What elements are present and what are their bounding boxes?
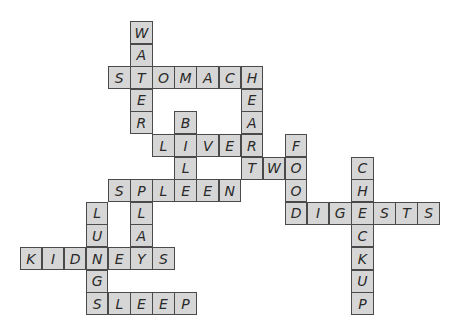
- crossword-cell[interactable]: A: [196, 66, 219, 89]
- crossword-cell[interactable]: U: [351, 270, 374, 293]
- crossword-cell[interactable]: K: [20, 247, 43, 270]
- crossword-cell[interactable]: T: [241, 157, 264, 180]
- crossword-cell[interactable]: E: [174, 179, 197, 202]
- crossword-cell[interactable]: E: [219, 134, 242, 157]
- crossword-cell[interactable]: W: [130, 21, 153, 44]
- crossword-cell[interactable]: Y: [130, 247, 153, 270]
- crossword-cell[interactable]: R: [130, 111, 153, 134]
- crossword-cell[interactable]: P: [130, 179, 153, 202]
- crossword-cell[interactable]: B: [174, 111, 197, 134]
- crossword-cell[interactable]: P: [174, 292, 197, 315]
- crossword-cell[interactable]: L: [152, 134, 175, 157]
- crossword-cell[interactable]: A: [241, 111, 264, 134]
- crossword-cell[interactable]: I: [174, 134, 197, 157]
- crossword-cell[interactable]: E: [130, 89, 153, 112]
- crossword-cell[interactable]: U: [86, 224, 109, 247]
- crossword-cell[interactable]: E: [108, 247, 131, 270]
- crossword-cell[interactable]: S: [152, 247, 175, 270]
- crossword-cell[interactable]: H: [241, 66, 264, 89]
- crossword-cell[interactable]: I: [42, 247, 65, 270]
- crossword-cell[interactable]: L: [108, 292, 131, 315]
- crossword-cell[interactable]: T: [395, 202, 418, 225]
- crossword-cell[interactable]: O: [285, 157, 308, 180]
- crossword-cell[interactable]: O: [152, 66, 175, 89]
- crossword-cell[interactable]: E: [241, 89, 264, 112]
- crossword-cell[interactable]: E: [130, 292, 153, 315]
- crossword-cell[interactable]: S: [417, 202, 440, 225]
- crossword-cell[interactable]: D: [64, 247, 87, 270]
- crossword-cell[interactable]: S: [373, 202, 396, 225]
- crossword-cell[interactable]: T: [130, 66, 153, 89]
- crossword-cell[interactable]: C: [351, 224, 374, 247]
- crossword-cell[interactable]: S: [108, 179, 131, 202]
- crossword-cell[interactable]: G: [329, 202, 352, 225]
- crossword-cell[interactable]: N: [86, 247, 109, 270]
- crossword-cell[interactable]: H: [351, 179, 374, 202]
- crossword-cell[interactable]: I: [307, 202, 330, 225]
- crossword-cell[interactable]: M: [174, 66, 197, 89]
- crossword-cell[interactable]: K: [351, 247, 374, 270]
- crossword-cell[interactable]: L: [86, 202, 109, 225]
- crossword-cell[interactable]: E: [351, 202, 374, 225]
- crossword-cell[interactable]: N: [219, 179, 242, 202]
- crossword-cell[interactable]: A: [130, 44, 153, 67]
- crossword-cell[interactable]: V: [196, 134, 219, 157]
- crossword-cell[interactable]: E: [152, 292, 175, 315]
- crossword-cell[interactable]: E: [196, 179, 219, 202]
- crossword-cell[interactable]: F: [285, 134, 308, 157]
- crossword-cell[interactable]: S: [86, 292, 109, 315]
- crossword-cell[interactable]: G: [86, 270, 109, 293]
- crossword-cell[interactable]: L: [174, 157, 197, 180]
- crossword-cell[interactable]: C: [351, 157, 374, 180]
- crossword-cell[interactable]: R: [241, 134, 264, 157]
- crossword-cell[interactable]: A: [130, 224, 153, 247]
- crossword-cell[interactable]: L: [152, 179, 175, 202]
- crossword-board: WATERSOMACHEARTBILELVEWOFODCHECKUPSPLENI…: [0, 0, 459, 336]
- crossword-cell[interactable]: S: [108, 66, 131, 89]
- crossword-cell[interactable]: L: [130, 202, 153, 225]
- crossword-cell[interactable]: C: [219, 66, 242, 89]
- crossword-cell[interactable]: P: [351, 292, 374, 315]
- crossword-cell[interactable]: D: [285, 202, 308, 225]
- crossword-cell[interactable]: O: [285, 179, 308, 202]
- crossword-cell[interactable]: W: [263, 157, 286, 180]
